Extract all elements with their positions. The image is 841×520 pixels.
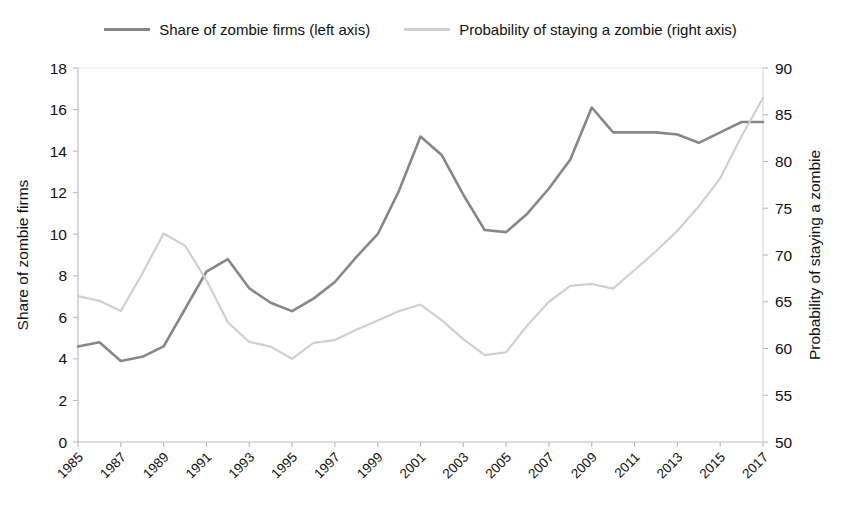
x-axis-tick-label: 2013 [654,450,686,482]
x-axis-tick-label: 2007 [525,450,557,482]
y-axis-left-tick-label: 6 [58,309,67,326]
series-line-share-of-zombie-firms [78,107,763,360]
x-axis-tick-label: 2005 [482,450,514,482]
y-axis-right-tick-label: 50 [775,434,793,451]
y-axis-right-tick-label: 70 [775,247,793,264]
y-axis-left-tick-label: 8 [58,267,67,284]
y-axis-right-tick-label: 85 [775,106,792,123]
x-axis-tick-label: 1995 [268,450,300,482]
x-axis-tick-label: 1993 [226,450,258,482]
x-axis-tick-label: 2015 [696,450,728,482]
x-axis-tick-label: 1985 [54,450,86,482]
plot-area-wrapper: 0246810121416185055606570758085901985198… [0,0,841,520]
x-axis-tick-label: 1991 [183,450,215,482]
y-axis-right-tick-label: 90 [775,60,793,77]
x-axis-tick-label: 2011 [612,450,643,481]
x-axis-tick-label: 1987 [97,450,129,482]
x-axis-tick-label: 2001 [397,450,429,482]
y-axis-right-tick-label: 80 [775,153,793,170]
chart-canvas: 0246810121416185055606570758085901985198… [0,0,841,520]
y-axis-left-tick-label: 18 [50,60,67,77]
y-axis-right-tick-label: 60 [775,340,793,357]
x-axis-tick-label: 1989 [140,450,172,482]
y-axis-left-title: Share of zombie firms [14,179,31,330]
x-axis-tick-label: 1997 [311,450,343,482]
zombie-firms-chart-figure: Share of zombie firms (left axis) Probab… [0,0,841,520]
x-axis-tick-label: 2003 [440,450,472,482]
x-axis-tick-label: 2017 [739,450,771,482]
y-axis-left-tick-label: 10 [50,226,68,243]
y-axis-left-tick-label: 16 [50,101,67,118]
y-axis-left-tick-label: 0 [58,434,67,451]
y-axis-right-tick-label: 75 [775,200,792,217]
y-axis-right-tick-label: 65 [775,293,792,310]
y-axis-left-tick-label: 2 [58,392,67,409]
x-axis-tick-label: 1999 [354,450,386,482]
y-axis-left-tick-label: 4 [58,350,67,367]
y-axis-right-title: Probability of staying a zombie [806,150,823,360]
y-axis-right-tick-label: 55 [775,387,792,404]
y-axis-left-tick-label: 12 [50,184,67,201]
x-axis-tick-label: 2009 [568,450,600,482]
y-axis-left-tick-label: 14 [50,143,68,160]
